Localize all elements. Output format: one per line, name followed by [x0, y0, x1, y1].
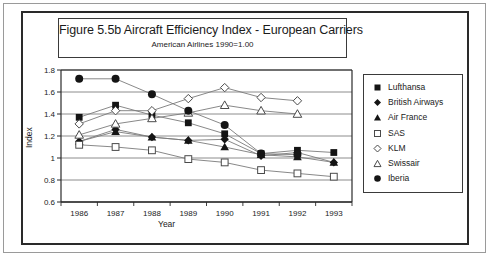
filled-diamond-icon	[370, 97, 384, 109]
data-point-marker	[220, 101, 229, 109]
data-point-marker	[294, 170, 301, 177]
data-point-marker	[258, 167, 265, 174]
x-axis-title: Year	[158, 219, 175, 229]
data-point-marker	[184, 94, 192, 102]
data-point-marker	[293, 97, 301, 105]
legend-item-klm: KLM	[370, 141, 462, 156]
data-point-marker	[76, 141, 83, 148]
data-point-marker	[330, 149, 337, 156]
data-point-marker	[148, 90, 156, 98]
x-tick-label: 1987	[107, 209, 125, 218]
series-markers	[75, 75, 338, 180]
y-tick-label: 0.8	[44, 176, 56, 185]
data-point-marker	[257, 93, 265, 101]
y-tick-label: 1	[51, 154, 56, 163]
filled-triangle-icon	[370, 112, 384, 124]
plot-area: 0.60.811.21.41.61.8198619871988198919901…	[28, 64, 358, 236]
filled-circle-icon	[370, 173, 384, 185]
legend-label-klm: KLM	[388, 144, 405, 153]
chart-canvas: 0.60.811.21.41.61.8198619871988198919901…	[28, 64, 358, 236]
data-point-marker	[330, 173, 337, 180]
open-triangle-icon	[370, 158, 384, 170]
y-tick-label: 1.8	[44, 66, 56, 75]
legend-label-british-airways: British Airways	[388, 98, 443, 107]
data-point-marker	[75, 120, 83, 128]
data-point-marker	[221, 121, 229, 129]
legend-item-iberia: Iberia	[370, 171, 462, 186]
series-line	[79, 88, 297, 124]
chart-title: Figure 5.5b Aircraft Efficiency Index - …	[59, 23, 346, 37]
filled-square-icon	[370, 82, 384, 94]
chart-title-box: Figure 5.5b Aircraft Efficiency Index - …	[58, 18, 347, 58]
legend-item-swissair: Swissair	[370, 156, 462, 171]
legend-label-iberia: Iberia	[388, 174, 409, 183]
x-tick-label: 1991	[252, 209, 270, 218]
legend-label-sas: SAS	[388, 129, 405, 138]
data-point-marker	[220, 83, 228, 91]
legend-label-lufthansa: Lufthansa	[388, 83, 425, 92]
open-square-icon	[370, 127, 384, 139]
legend-label-swissair: Swissair	[388, 159, 420, 168]
y-tick-label: 1.6	[44, 88, 56, 97]
y-tick-label: 1.2	[44, 132, 56, 141]
data-point-marker	[75, 75, 83, 83]
data-point-marker	[185, 119, 192, 126]
legend-label-air-france: Air France	[388, 113, 427, 122]
data-point-marker	[149, 147, 156, 154]
data-point-marker	[112, 144, 119, 151]
data-point-marker	[293, 151, 301, 159]
data-point-marker	[185, 156, 192, 163]
legend-item-sas: SAS	[370, 126, 462, 141]
x-tick-label: 1988	[143, 209, 161, 218]
x-tick-label: 1993	[325, 209, 343, 218]
chart-legend: Lufthansa British Airways Air France SAS…	[363, 74, 463, 193]
data-point-marker	[257, 150, 265, 158]
chart-subtitle: American Airlines 1990=1.00	[59, 40, 346, 49]
series-iberia	[75, 75, 301, 159]
x-tick-label: 1990	[216, 209, 234, 218]
data-point-marker	[184, 107, 192, 115]
x-tick-label: 1989	[179, 209, 197, 218]
figure-container: Figure 5.5b Aircraft Efficiency Index - …	[0, 0, 489, 256]
y-tick-label: 0.6	[44, 198, 56, 207]
legend-item-lufthansa: Lufthansa	[370, 80, 462, 95]
y-tick-label: 1.4	[44, 110, 56, 119]
data-point-marker	[221, 159, 228, 166]
open-diamond-icon	[370, 142, 384, 154]
data-point-marker	[112, 75, 120, 83]
x-tick-label: 1992	[289, 209, 307, 218]
legend-item-air-france: Air France	[370, 110, 462, 125]
x-tick-label: 1986	[70, 209, 88, 218]
legend-item-british-airways: British Airways	[370, 95, 462, 110]
y-axis-title: Index	[24, 127, 34, 148]
